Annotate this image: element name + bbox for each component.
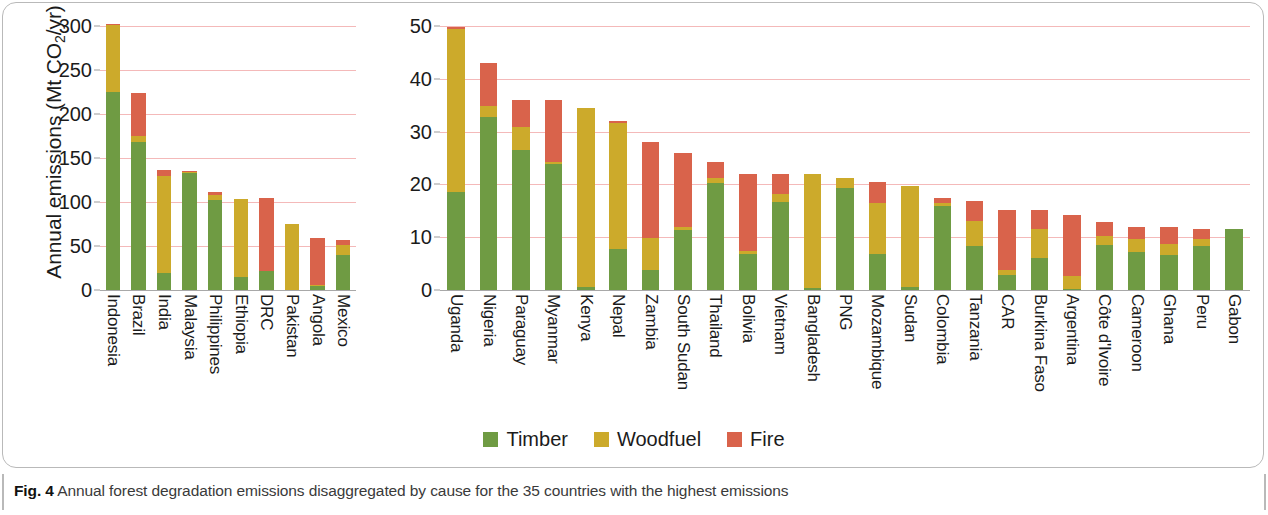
bar-slot[interactable] xyxy=(1088,26,1120,290)
stacked-bar[interactable] xyxy=(772,174,789,290)
stacked-bar[interactable] xyxy=(1031,210,1048,290)
x-label-slot: Vietnam xyxy=(764,290,796,418)
stacked-bar[interactable] xyxy=(106,24,120,290)
bar-slot[interactable] xyxy=(151,26,177,290)
bar-slot[interactable] xyxy=(699,26,731,290)
stacked-bar[interactable] xyxy=(804,174,821,290)
bar-segment-timber xyxy=(674,230,691,290)
bar-segment-timber xyxy=(836,188,853,290)
bar-segment-timber xyxy=(739,254,756,290)
stacked-bar[interactable] xyxy=(609,121,626,290)
bar-slot[interactable] xyxy=(330,26,356,290)
stacked-bar[interactable] xyxy=(512,100,529,290)
bar-slot[interactable] xyxy=(764,26,796,290)
stacked-bar[interactable] xyxy=(208,192,222,290)
stacked-bar[interactable] xyxy=(131,93,145,290)
bar-segment-woodfuel xyxy=(336,245,350,255)
bar-slot[interactable] xyxy=(1121,26,1153,290)
bar-slot[interactable] xyxy=(202,26,228,290)
bar-slot[interactable] xyxy=(305,26,331,290)
bar-slot[interactable] xyxy=(254,26,280,290)
bars-area-right xyxy=(440,26,1250,290)
bar-slot[interactable] xyxy=(472,26,504,290)
bar-slot[interactable] xyxy=(1218,26,1250,290)
bar-slot[interactable] xyxy=(177,26,203,290)
figure-caption-text: Annual forest degradation emissions disa… xyxy=(57,482,788,499)
bar-segment-woodfuel xyxy=(1160,244,1177,255)
stacked-bar[interactable] xyxy=(1225,229,1242,290)
bar-slot[interactable] xyxy=(126,26,152,290)
y-tick-label: 250 xyxy=(59,59,92,82)
y-tick-label: 300 xyxy=(59,15,92,38)
bar-slot[interactable] xyxy=(228,26,254,290)
bar-segment-woodfuel xyxy=(1193,239,1210,246)
bar-slot[interactable] xyxy=(1153,26,1185,290)
stacked-bar[interactable] xyxy=(934,198,951,290)
bar-segment-woodfuel xyxy=(901,186,918,287)
bar-slot[interactable] xyxy=(279,26,305,290)
bar-segment-timber xyxy=(157,273,171,290)
stacked-bar[interactable] xyxy=(869,182,886,290)
bar-slot[interactable] xyxy=(894,26,926,290)
stacked-bar[interactable] xyxy=(182,171,196,290)
plot-area-left: 050100150200250300 xyxy=(56,26,356,290)
bar-slot[interactable] xyxy=(667,26,699,290)
x-label-slot: Myanmar xyxy=(537,290,569,418)
x-tick-label: Cameroon xyxy=(1127,294,1147,372)
bar-slot[interactable] xyxy=(732,26,764,290)
stacked-bar[interactable] xyxy=(1160,227,1177,290)
bar-slot[interactable] xyxy=(537,26,569,290)
bar-slot[interactable] xyxy=(634,26,666,290)
bar-slot[interactable] xyxy=(1023,26,1055,290)
stacked-bar[interactable] xyxy=(966,201,983,290)
stacked-bar[interactable] xyxy=(310,238,324,290)
bar-segment-timber xyxy=(1225,229,1242,290)
stacked-bar[interactable] xyxy=(259,198,273,290)
stacked-bar[interactable] xyxy=(447,27,464,290)
bar-segment-woodfuel xyxy=(447,29,464,192)
bar-slot[interactable] xyxy=(861,26,893,290)
stacked-bar[interactable] xyxy=(739,174,756,290)
legend-item-fire[interactable]: Fire xyxy=(727,428,784,451)
stacked-bar[interactable] xyxy=(157,170,171,290)
bar-slot[interactable] xyxy=(796,26,828,290)
bar-segment-fire xyxy=(1063,215,1080,276)
stacked-bar[interactable] xyxy=(642,142,659,290)
bar-segment-timber xyxy=(966,246,983,290)
bar-slot[interactable] xyxy=(959,26,991,290)
bar-slot[interactable] xyxy=(505,26,537,290)
bar-slot[interactable] xyxy=(602,26,634,290)
stacked-bar[interactable] xyxy=(545,100,562,290)
stacked-bar[interactable] xyxy=(901,186,918,290)
stacked-bar[interactable] xyxy=(1063,215,1080,290)
legend-item-woodfuel[interactable]: Woodfuel xyxy=(594,428,701,451)
x-label-slot: Mexico xyxy=(330,290,356,418)
stacked-bar[interactable] xyxy=(234,199,248,291)
stacked-bar[interactable] xyxy=(674,153,691,290)
stacked-bar[interactable] xyxy=(1096,222,1113,290)
x-label-slot: Argentina xyxy=(1056,290,1088,418)
bar-slot[interactable] xyxy=(1056,26,1088,290)
bar-slot[interactable] xyxy=(926,26,958,290)
stacked-bar[interactable] xyxy=(1193,229,1210,290)
bar-slot[interactable] xyxy=(570,26,602,290)
stacked-bar[interactable] xyxy=(336,240,350,290)
stacked-bar[interactable] xyxy=(998,210,1015,290)
bar-slot[interactable] xyxy=(440,26,472,290)
bar-segment-timber xyxy=(934,206,951,290)
stacked-bar[interactable] xyxy=(577,108,594,290)
stacked-bar[interactable] xyxy=(285,224,299,290)
x-tick-label: Côte d'Ivoire xyxy=(1094,294,1114,386)
bar-slot[interactable] xyxy=(829,26,861,290)
x-label-slot: DRC xyxy=(254,290,280,418)
legend-item-timber[interactable]: Timber xyxy=(483,428,567,451)
stacked-bar[interactable] xyxy=(1128,227,1145,290)
stacked-bar[interactable] xyxy=(836,178,853,290)
bar-slot[interactable] xyxy=(100,26,126,290)
bar-segment-fire xyxy=(1031,210,1048,228)
bar-slot[interactable] xyxy=(991,26,1023,290)
bar-slot[interactable] xyxy=(1185,26,1217,290)
stacked-bar[interactable] xyxy=(480,63,497,290)
stacked-bar[interactable] xyxy=(707,162,724,290)
x-axis-labels-right: UgandaNigeriaParaguayMyanmarKenyaNepalZa… xyxy=(404,290,1250,418)
